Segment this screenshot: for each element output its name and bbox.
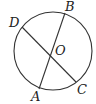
circle-diagram: D B O A C — [0, 0, 96, 104]
label-o: O — [55, 43, 66, 58]
segment-dc — [22, 27, 76, 82]
label-c: C — [77, 82, 87, 97]
label-d: D — [8, 15, 20, 30]
circle-o — [14, 12, 92, 90]
label-a: A — [30, 89, 40, 104]
label-b: B — [64, 0, 75, 14]
